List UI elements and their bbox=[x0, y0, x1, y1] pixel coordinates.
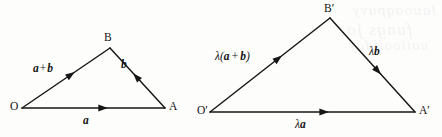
left-edge-o-to-b bbox=[22, 48, 110, 108]
figure-root: lauooqpuvy fungs jo uoiiooijddy bbox=[0, 0, 442, 137]
arrowhead-vector-a bbox=[98, 105, 108, 112]
left-triangle-group bbox=[22, 48, 165, 111]
vector-diagram-svg bbox=[0, 0, 442, 137]
arrowhead-vector-a-plus-b bbox=[65, 72, 75, 80]
arrowhead-vector-lambda-a bbox=[319, 109, 329, 116]
right-triangle-group bbox=[210, 18, 415, 115]
right-edge-bprime-to-aprime bbox=[330, 18, 415, 112]
right-edge-oprime-to-bprime bbox=[210, 18, 330, 112]
